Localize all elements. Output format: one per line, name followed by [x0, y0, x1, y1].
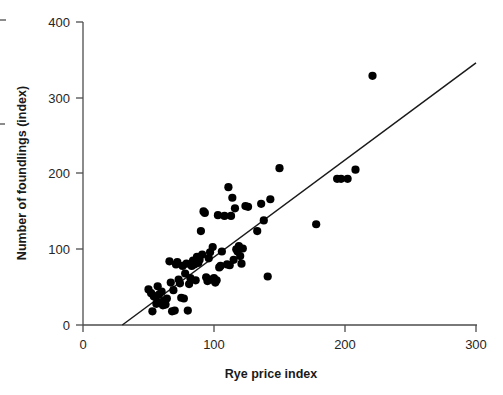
data-point: [231, 204, 239, 212]
chart-canvas: 400 300 200 100 0 0 100 200 300 Rye pric…: [0, 0, 503, 395]
data-point: [260, 216, 268, 224]
data-point: [351, 166, 359, 174]
y-tick-label-300: 300: [48, 91, 70, 106]
data-point: [148, 307, 156, 315]
data-point: [344, 175, 352, 183]
x-tick-label-300: 300: [465, 337, 487, 352]
data-point: [264, 272, 272, 280]
y-tick-label-0: 0: [63, 318, 70, 333]
data-point: [213, 276, 221, 284]
data-point: [180, 294, 188, 302]
data-point: [253, 227, 261, 235]
y-axis-title: Number of foundlings (index): [15, 86, 29, 260]
data-point: [169, 286, 177, 294]
data-point: [171, 307, 179, 315]
data-point: [368, 72, 376, 80]
data-point: [163, 294, 171, 302]
x-tick-label-100: 100: [203, 337, 225, 352]
y-tick-label-400: 400: [48, 15, 70, 30]
scatter-plot-figure: 400 300 200 100 0 0 100 200 300 Rye pric…: [0, 0, 503, 395]
data-point: [197, 227, 205, 235]
data-point: [312, 220, 320, 228]
data-point: [257, 200, 265, 208]
data-point: [239, 244, 247, 252]
data-point: [158, 288, 166, 296]
data-point: [236, 252, 244, 260]
data-point: [201, 209, 209, 217]
scan-artifact-middle: [0, 123, 5, 125]
data-point: [275, 164, 283, 172]
data-point: [176, 279, 184, 287]
data-point: [184, 307, 192, 315]
data-point: [237, 260, 245, 268]
data-point: [192, 276, 200, 284]
data-point: [224, 183, 232, 191]
scan-artifact-top: [0, 19, 6, 21]
x-tick-label-0: 0: [79, 337, 86, 352]
x-tick-label-200: 200: [334, 337, 356, 352]
data-point: [227, 212, 235, 220]
y-tick-label-100: 100: [48, 242, 70, 257]
y-tick-label-200: 200: [48, 166, 70, 181]
data-point: [167, 278, 175, 286]
data-point: [244, 203, 252, 211]
data-point: [228, 194, 236, 202]
data-point: [218, 247, 226, 255]
data-point: [209, 243, 217, 251]
chart-background: [0, 0, 503, 395]
x-axis-title: Rye price index: [225, 367, 317, 381]
data-point: [266, 195, 274, 203]
